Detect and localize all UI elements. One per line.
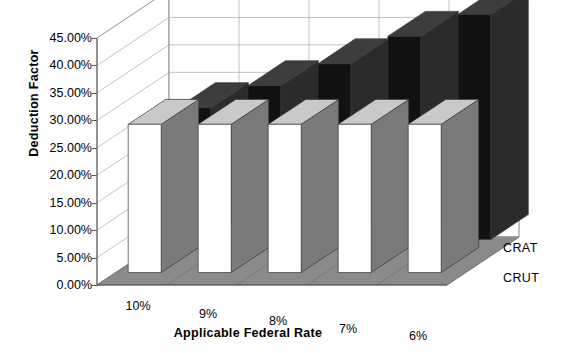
x-axis-title: Applicable Federal Rate bbox=[118, 326, 378, 340]
x-tick-label: 10% bbox=[116, 299, 160, 313]
legend-label-crut: CRUT bbox=[503, 271, 539, 285]
x-tick-label: 6% bbox=[396, 329, 440, 343]
plot-area bbox=[0, 0, 563, 353]
chart-container: Deduction Factor 0.00%5.00%10.00%15.00%2… bbox=[0, 0, 563, 353]
legend-label-crat: CRAT bbox=[503, 241, 538, 255]
x-tick-label: 9% bbox=[186, 307, 230, 321]
